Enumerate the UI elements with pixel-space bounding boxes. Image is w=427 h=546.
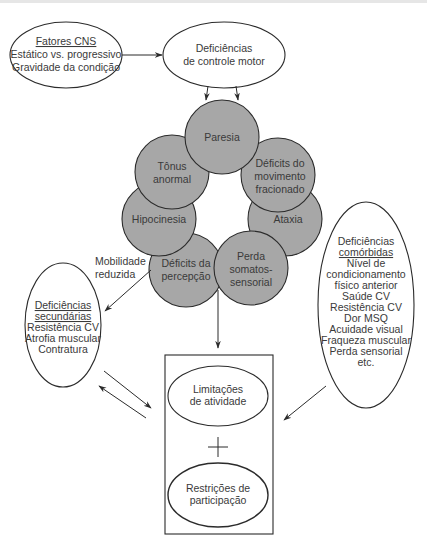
node-activity-limitations: Limitações de atividade — [168, 366, 268, 426]
cns-factors-title: Fatores CNS — [36, 35, 97, 47]
arrow-motor-to-ring-right — [236, 86, 238, 100]
circle-label: movimento — [254, 170, 306, 182]
reduced-mobility-label: Mobilidade — [95, 255, 146, 267]
motor-control-line: de controle motor — [183, 55, 265, 67]
activity-line: Limitações — [193, 383, 243, 395]
circle-label: somatos- — [229, 263, 273, 275]
motor-control-line: Deficiências — [196, 42, 253, 54]
cns-factors-line: Gravidade da condição — [12, 61, 120, 73]
circle-perda-somatossensorial: Perda somatos- sensorial — [214, 231, 288, 305]
node-comorbid-impairments: Deficiências comórbidas Nível de condici… — [318, 202, 414, 408]
circle-label: sensorial — [230, 276, 272, 288]
node-secondary-impairments: Deficiências secundárias Resistência CV … — [25, 263, 101, 387]
circle-label: percepção — [161, 270, 210, 282]
circle-label: Hipocinesia — [132, 213, 186, 225]
outcomes-box: Limitações de atividade Restrições de pa… — [165, 355, 273, 534]
participation-line: Restrições de — [186, 482, 250, 494]
reduced-mobility-label: reduzida — [95, 268, 135, 280]
circle-label: Ataxia — [273, 213, 302, 225]
cns-factors-line: Estático vs. progressivo — [11, 48, 122, 60]
node-motor-control: Deficiências de controle motor — [163, 22, 285, 88]
circle-label: Perda — [237, 250, 265, 262]
arrow-motor-to-ring-left — [206, 86, 208, 100]
circle-label: Paresia — [204, 131, 240, 143]
icf-diagram: Fatores CNS Estático vs. progressivo Gra… — [0, 0, 427, 546]
circle-label: fracionado — [255, 183, 304, 195]
circle-label: Tônus — [157, 160, 186, 172]
node-cns-factors: Fatores CNS Estático vs. progressivo Gra… — [10, 22, 122, 88]
plus-sign — [208, 437, 228, 457]
secondary-line: Contratura — [38, 343, 88, 355]
arrow-outcomes-to-secondary — [99, 386, 146, 418]
activity-line: de atividade — [190, 395, 247, 407]
circle-label: Déficits da — [161, 257, 210, 269]
circle-label: Déficits do — [255, 157, 304, 169]
circle-paresia: Paresia — [185, 100, 259, 174]
participation-line: participação — [190, 494, 247, 506]
arrow-secondary-to-outcomes — [104, 371, 151, 408]
node-participation-restrictions: Restrições de participação — [168, 463, 268, 527]
arrow-comorbid-to-outcomes — [284, 386, 326, 420]
circle-label: anormal — [153, 173, 191, 185]
comorbid-line: etc. — [358, 356, 375, 368]
impairments-ring: Déficits da percepção Hipocinesia Tônus … — [122, 100, 322, 307]
